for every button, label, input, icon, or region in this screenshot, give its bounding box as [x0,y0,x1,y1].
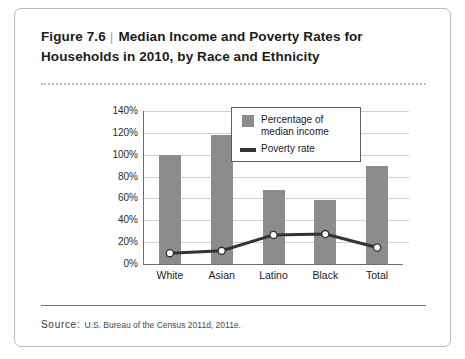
x-axis-label-latino: Latino [259,269,288,281]
y-axis-tick-label: 40% [118,215,138,225]
legend-label-median-income-line2: median income [261,126,329,137]
legend-item-poverty-rate: Poverty rate [240,143,353,155]
x-axis-label-asian: Asian [209,269,235,281]
bar-swatch-icon [242,115,254,127]
figure-number: Figure 7.6 [41,29,106,44]
line-swatch-icon [240,148,256,152]
x-axis-label-white: White [156,269,183,281]
y-axis-tick-label: 20% [118,237,138,247]
figure-title-line-2: Households in 2010, by Race and Ethnicit… [41,47,421,67]
figure-card: Figure 7.6|Median Income and Poverty Rat… [14,8,451,347]
y-axis-tick-label: 120% [112,128,138,138]
y-axis-tick-label: 60% [118,193,138,203]
legend-label-poverty-rate: Poverty rate [261,143,315,155]
source-line: Source:U.S. Bureau of the Census 2011d, … [41,314,241,332]
figure-title-text-1: Median Income and Poverty Rates for [118,29,362,44]
x-axis-label-total: Total [366,269,388,281]
figure-title-line-1: Figure 7.6|Median Income and Poverty Rat… [41,27,421,47]
y-axis-tick-label: 80% [118,172,138,182]
legend-label-median-income: Percentage of median income [261,114,329,138]
legend-label-median-income-line1: Percentage of [261,114,323,125]
poverty-rate-marker-asian [218,247,225,254]
source-text: U.S. Bureau of the Census 2011d, 2011e. [84,320,241,330]
legend-item-median-income: Percentage of median income [240,114,353,138]
poverty-rate-marker-total [374,244,381,251]
poverty-rate-marker-white [166,250,173,257]
y-axis-tick-label: 0% [124,259,138,269]
figure-header: Figure 7.6|Median Income and Poverty Rat… [41,27,421,67]
chart-legend: Percentage of median income Poverty rate [231,107,361,162]
title-divider [41,83,426,87]
figure-title-separator: | [106,29,119,44]
gridline-0pct [144,264,409,265]
y-axis-tick-label: 100% [112,150,138,160]
source-label: Source: [41,319,80,330]
y-axis-tick-label: 140% [112,106,138,116]
poverty-rate-marker-black [322,230,329,237]
source-divider [41,305,426,306]
x-axis-label-black: Black [312,269,338,281]
poverty-rate-marker-latino [270,231,277,238]
